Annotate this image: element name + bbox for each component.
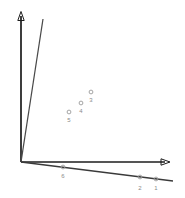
scatter-plot-figure: 6 2 1 3 4 5: [0, 0, 185, 198]
plot-canvas: 6 2 1 3 4 5: [0, 0, 185, 198]
